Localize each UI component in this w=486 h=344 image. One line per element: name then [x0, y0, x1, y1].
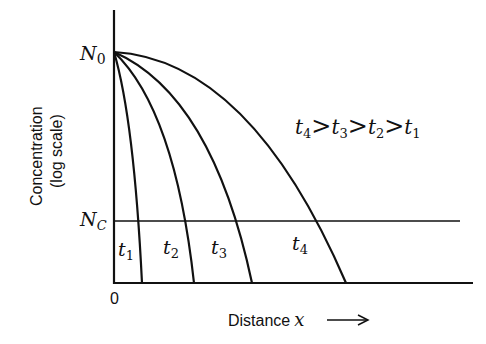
region-label-t2: t2 [163, 236, 179, 261]
time-order-relation: t4>t3>t2>t1 [295, 112, 421, 141]
y-axis-sublabel: (log scale) [48, 114, 65, 188]
x-axis-label: Distance x [228, 309, 304, 330]
region-label-t4: t4 [292, 232, 308, 257]
y-axis-label: Concentration [28, 106, 45, 206]
curve-t4 [114, 52, 346, 283]
region-label-t3: t3 [211, 236, 227, 261]
region-label-t1: t1 [118, 238, 134, 263]
nc-label: NC [79, 208, 107, 233]
x-axis-arrow [327, 315, 368, 325]
n0-label: N0 [79, 42, 106, 67]
origin-label: 0 [110, 290, 119, 307]
diffusion-diagram: N0 NC Concentration (log scale) 0 Distan… [0, 0, 486, 344]
